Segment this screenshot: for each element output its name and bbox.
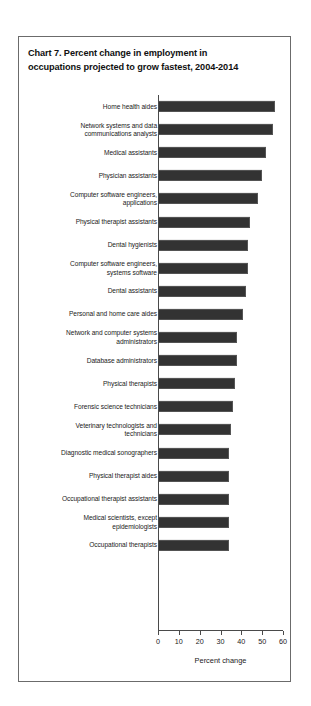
bar-row: Computer software engineers, application… (19, 187, 292, 210)
bar-row: Dental assistants (19, 280, 292, 303)
x-axis-tick-label: 20 (196, 637, 204, 646)
x-axis-tick-mark (200, 631, 201, 635)
bar-category-label: Physician assistants (42, 172, 157, 180)
bar-fill (158, 378, 235, 389)
bar-fill (158, 540, 229, 551)
chart-title-line-1: Chart 7. Percent change in employment in (28, 47, 284, 61)
bar-category-label: Home health aides (42, 102, 157, 110)
bar-fill (158, 124, 273, 135)
bar-fill (158, 309, 243, 320)
bar-fill (158, 332, 237, 343)
bar-row: Dental hygienists (19, 234, 292, 257)
bar-category-label: Network systems and data communications … (42, 121, 157, 138)
bar-category-label: Computer software engineers, application… (42, 191, 157, 208)
bar-fill (158, 101, 275, 112)
bar-row: Medical assistants (19, 141, 292, 164)
bar-fill (158, 263, 248, 274)
chart-container: Chart 7. Percent change in employment in… (18, 36, 291, 682)
bar-fill (158, 240, 248, 251)
y-axis-line (158, 95, 159, 631)
bar-category-label: Database administrators (42, 356, 157, 364)
chart-title: Chart 7. Percent change in employment in… (28, 47, 284, 74)
bar-row: Network and computer systems administrat… (19, 326, 292, 349)
plot-area: Home health aidesNetwork systems and dat… (19, 95, 292, 630)
bar-category-label: Dental hygienists (42, 241, 157, 249)
bar-row: Home health aides (19, 95, 292, 118)
bar-row: Veterinary technologists and technicians (19, 418, 292, 441)
x-axis-tick-mark (179, 631, 180, 635)
bar-row: Occupational therapist assistants (19, 488, 292, 511)
bar-fill (158, 147, 266, 158)
x-axis-tick-label: 0 (156, 637, 160, 646)
bar-category-label: Physical therapist assistants (42, 218, 157, 226)
bar-row: Physical therapist assistants (19, 210, 292, 233)
bar-category-label: Forensic science technicians (42, 403, 157, 411)
x-axis-tick-mark (262, 631, 263, 635)
x-axis-tick-mark (283, 631, 284, 635)
x-axis-tick-label: 30 (217, 637, 225, 646)
bar-category-label: Medical scientists, except epidemiologis… (42, 514, 157, 531)
bar-fill (158, 447, 229, 458)
bar-fill (158, 424, 231, 435)
bar-fill (158, 170, 262, 181)
bar-category-label: Personal and home care aides (42, 310, 157, 318)
bar-category-label: Physical therapist aides (42, 472, 157, 480)
bar-fill (158, 494, 229, 505)
bar-fill (158, 471, 229, 482)
bar-fill (158, 517, 229, 528)
bar-row: Physical therapists (19, 372, 292, 395)
bar-fill (158, 193, 258, 204)
bar-category-label: Physical therapists (42, 379, 157, 387)
bar-category-label: Medical assistants (42, 149, 157, 157)
bar-row: Diagnostic medical sonographers (19, 441, 292, 464)
bar-category-label: Occupational therapist assistants (42, 495, 157, 503)
chart-title-line-2: occupations projected to grow fastest, 2… (28, 61, 284, 75)
x-axis-tick-mark (221, 631, 222, 635)
x-axis-tick-label: 60 (279, 637, 287, 646)
bar-row: Computer software engineers, systems sof… (19, 257, 292, 280)
bar-row: Physical therapist aides (19, 465, 292, 488)
bar-fill (158, 217, 250, 228)
bar-category-label: Diagnostic medical sonographers (42, 449, 157, 457)
bar-row: Medical scientists, except epidemiologis… (19, 511, 292, 534)
bar-row: Database administrators (19, 349, 292, 372)
x-axis-tick-label: 50 (258, 637, 266, 646)
bar-category-label: Computer software engineers, systems sof… (42, 260, 157, 277)
bar-fill (158, 401, 233, 412)
bar-category-label: Veterinary technologists and technicians (42, 421, 157, 438)
bar-category-label: Dental assistants (42, 287, 157, 295)
bar-fill (158, 355, 237, 366)
bar-row: Network systems and data communications … (19, 118, 292, 141)
bar-category-label: Network and computer systems administrat… (42, 329, 157, 346)
x-axis-tick-mark (158, 631, 159, 635)
x-axis-tick-mark (241, 631, 242, 635)
bar-row: Personal and home care aides (19, 303, 292, 326)
x-axis-title: Percent change (158, 656, 283, 665)
bar-row: Forensic science technicians (19, 395, 292, 418)
bar-category-label: Occupational therapists (42, 541, 157, 549)
bar-row: Physician assistants (19, 164, 292, 187)
bar-row: Occupational therapists (19, 534, 292, 557)
x-axis-tick-label: 40 (237, 637, 245, 646)
bar-fill (158, 286, 246, 297)
x-axis-tick-label: 10 (175, 637, 183, 646)
